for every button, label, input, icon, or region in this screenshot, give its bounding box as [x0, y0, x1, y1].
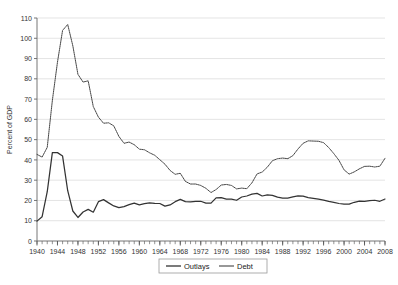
y-tick-label: 110 [21, 15, 32, 22]
x-tick-label: 1980 [234, 248, 250, 255]
y-tick-label: 20 [24, 197, 32, 204]
y-axis-title: Percent of GDP [6, 105, 13, 154]
x-tick-label: 1968 [173, 248, 189, 255]
y-tick-label: 10 [24, 217, 32, 224]
y-tick-label: 0 [28, 238, 32, 245]
x-tick-label: 1984 [254, 248, 270, 255]
y-tick-label: 30 [24, 177, 32, 184]
x-tick-label: 1956 [111, 248, 127, 255]
y-tick-label: 40 [24, 157, 32, 164]
chart-container: 0102030405060708090100110194019441948195… [0, 0, 398, 285]
x-tick-label: 1960 [132, 248, 148, 255]
legend-label-debt: Debt [237, 262, 254, 271]
x-tick-label: 1972 [193, 248, 209, 255]
x-tick-label: 2008 [377, 248, 393, 255]
y-tick-label: 50 [24, 136, 32, 143]
series-line-debt [37, 24, 385, 192]
x-tick-label: 1976 [213, 248, 229, 255]
y-tick-label: 90 [24, 55, 32, 62]
legend-label-outlays: Outlays [184, 262, 210, 271]
x-tick-label: 1992 [295, 248, 311, 255]
x-tick-label: 1996 [316, 248, 332, 255]
x-tick-label: 2004 [357, 248, 373, 255]
y-tick-label: 60 [24, 116, 32, 123]
series-line-outlays [37, 153, 385, 222]
x-tick-label: 1988 [275, 248, 291, 255]
y-tick-label: 70 [24, 96, 32, 103]
y-tick-label: 80 [24, 75, 32, 82]
x-tick-label: 1952 [91, 248, 107, 255]
x-tick-label: 1940 [29, 248, 45, 255]
line-chart: 0102030405060708090100110194019441948195… [0, 0, 398, 285]
x-tick-label: 2000 [336, 248, 352, 255]
x-tick-label: 1964 [152, 248, 168, 255]
x-tick-label: 1948 [70, 248, 86, 255]
y-tick-label: 100 [20, 35, 32, 42]
x-tick-label: 1944 [50, 248, 66, 255]
